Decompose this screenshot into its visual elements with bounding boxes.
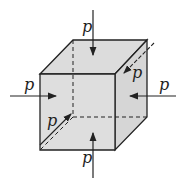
label-right: p <box>159 75 169 94</box>
label-front: p <box>47 111 57 130</box>
label-top: p <box>82 17 92 36</box>
label-bottom: p <box>82 148 92 167</box>
cube-pressure-diagram: p p p p p p <box>0 0 184 187</box>
label-left: p <box>24 75 34 94</box>
label-back: p <box>132 63 142 82</box>
